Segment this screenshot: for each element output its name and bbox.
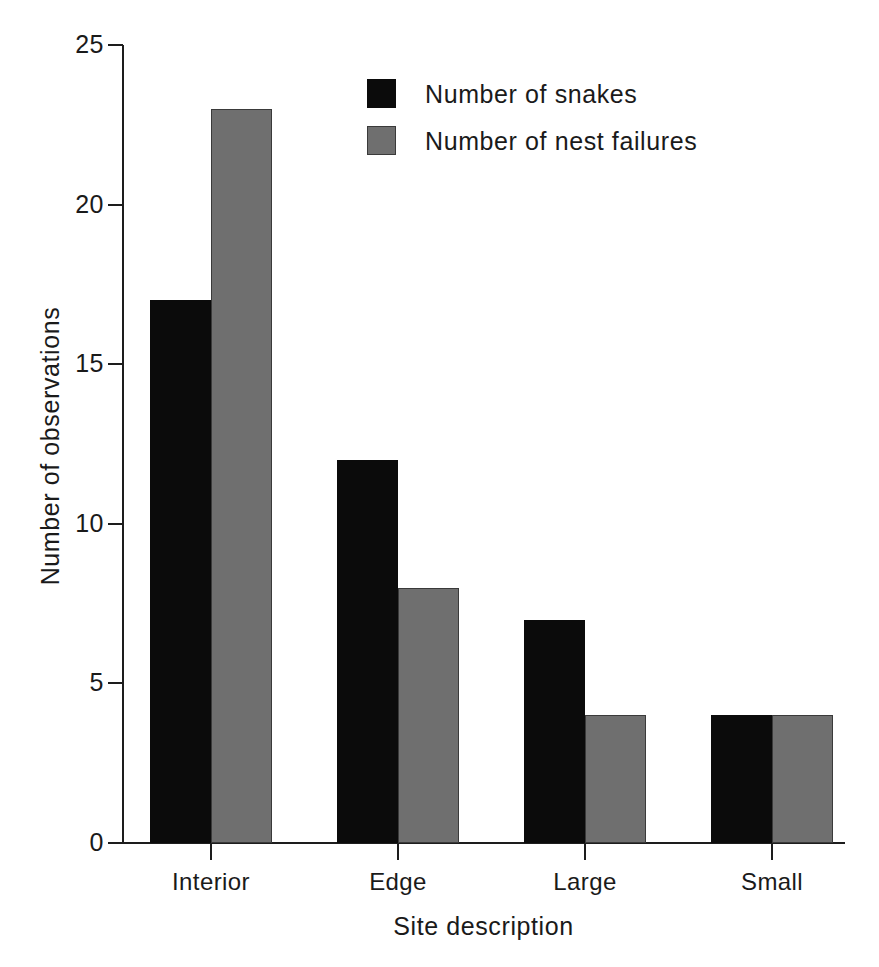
y-axis-tick-mark [108,44,123,46]
y-axis-line [122,45,124,844]
bar [585,715,646,843]
y-axis-tick-mark [108,842,123,844]
bar [772,715,833,843]
chart-legend: Number of snakes Number of nest failures [367,70,697,164]
y-axis-tick-mark [108,523,123,525]
legend-item-snakes: Number of snakes [367,70,697,117]
legend-item-label: Number of snakes [425,80,637,108]
x-axis-tick-label: Small [672,868,872,896]
x-axis-tick-label: Large [485,868,685,896]
bar [711,715,772,843]
x-axis-tick-label: Edge [298,868,498,896]
bar [337,460,398,843]
y-axis-tick-mark [108,363,123,365]
y-axis-tick-mark [108,682,123,684]
x-axis-tick-mark [397,844,399,860]
y-axis-title: Number of observations [36,206,64,686]
gray-square-swatch-icon [367,126,396,155]
x-axis-tick-mark [771,844,773,860]
black-square-swatch-icon [367,79,396,108]
legend-item-label: Number of nest failures [425,127,697,155]
legend-item-nest-failures: Number of nest failures [367,117,697,164]
y-axis-tick-label: 0 [0,830,104,855]
x-axis-tick-label: Interior [111,868,311,896]
y-axis-tick-mark [108,204,123,206]
bar [524,620,585,843]
x-axis-title: Site description [122,912,845,940]
bar [211,109,272,843]
y-axis-tick-label-text: 25 [52,32,104,57]
y-axis-tick-label-text: 0 [52,830,104,855]
bar [150,300,211,843]
x-axis-tick-mark [210,844,212,860]
bar [398,588,459,843]
bar-chart-figure: 0510152025 InteriorEdgeLargeSmall Number… [0,0,879,967]
x-axis-tick-mark [584,844,586,860]
y-axis-tick-label: 25 [0,32,104,57]
